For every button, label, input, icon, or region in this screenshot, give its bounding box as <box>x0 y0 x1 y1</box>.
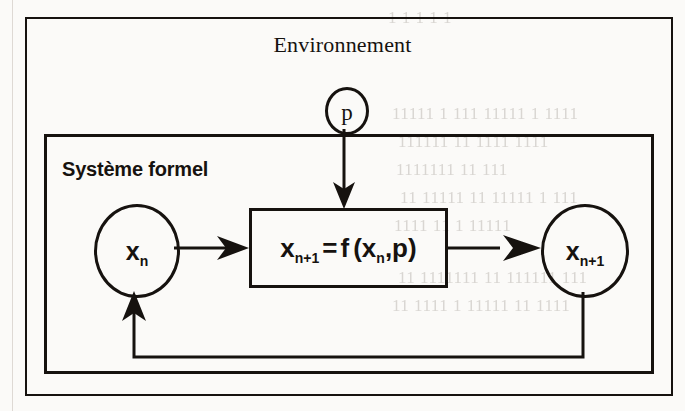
formal-system-label: Système formel <box>62 158 208 181</box>
node-parameter-p[interactable]: p <box>325 87 369 135</box>
diagram-page: 1 1 1 1 1 11111 1 111 11111 1 1111 11111… <box>0 0 685 411</box>
node-state-current[interactable]: xn <box>94 204 180 298</box>
node-state-current-label: xn <box>126 237 148 266</box>
node-state-next[interactable]: xn+1 <box>541 204 629 298</box>
environment-title: Environnement <box>0 32 685 58</box>
node-parameter-label: p <box>341 101 353 124</box>
transition-equation-text: xn+1=f(xn,p) <box>280 233 416 264</box>
page-edge-line <box>12 0 13 411</box>
node-transition-equation[interactable]: xn+1=f(xn,p) <box>249 208 448 288</box>
node-state-next-label: xn+1 <box>566 237 604 266</box>
